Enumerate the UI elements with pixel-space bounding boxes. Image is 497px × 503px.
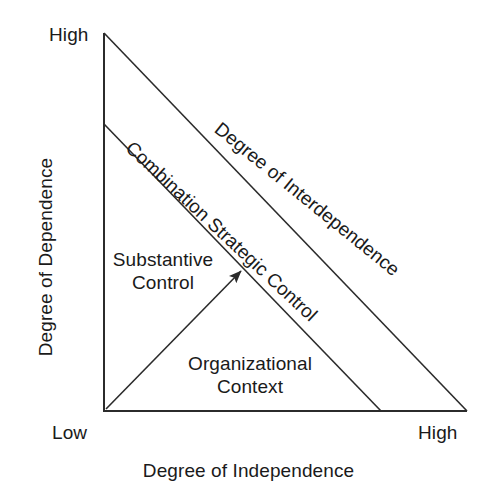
- region-label-organizational-line2: Context: [175, 375, 325, 398]
- diagram-canvas: High Degree of Dependence Low High Degre…: [0, 0, 497, 503]
- x-axis-tick-high: High: [418, 421, 457, 444]
- region-label-substantive-line1: Substantive: [104, 248, 222, 271]
- region-label-substantive-line2: Control: [104, 271, 222, 294]
- x-axis-title: Degree of Independence: [0, 459, 497, 482]
- y-axis-tick-high: High: [49, 23, 88, 46]
- region-label-substantive-control: Substantive Control: [104, 248, 222, 294]
- y-axis-title: Degree of Dependence: [34, 127, 57, 387]
- x-axis-tick-low: Low: [52, 421, 87, 444]
- region-label-organizational-line1: Organizational: [175, 352, 325, 375]
- region-label-organizational-context: Organizational Context: [175, 352, 325, 398]
